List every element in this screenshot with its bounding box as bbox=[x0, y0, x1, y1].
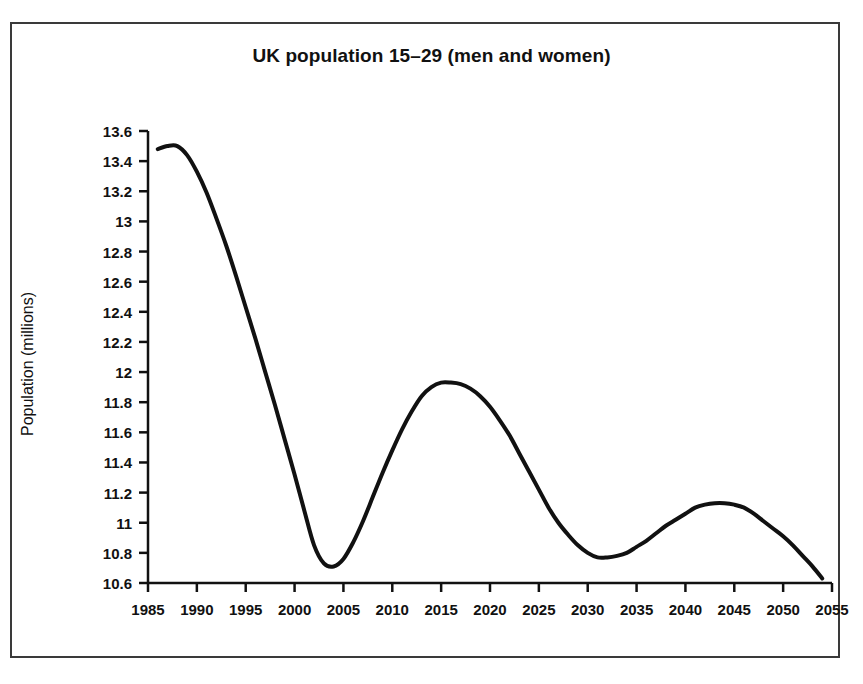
y-tick-label: 13.4 bbox=[40, 153, 132, 170]
x-tick-label: 1990 bbox=[180, 601, 213, 618]
data-series-line bbox=[158, 145, 822, 578]
y-tick-label: 11.2 bbox=[40, 484, 132, 501]
y-tick-label: 12.8 bbox=[40, 243, 132, 260]
x-tick-label: 2020 bbox=[473, 601, 506, 618]
y-tick-label: 13 bbox=[40, 213, 132, 230]
figure-container: UK population 15–29 (men and women) Popu… bbox=[0, 0, 863, 684]
y-tick-label: 12 bbox=[40, 364, 132, 381]
y-tick-label: 10.6 bbox=[40, 575, 132, 592]
y-tick-label: 13.6 bbox=[40, 123, 132, 140]
y-tick-label: 12.6 bbox=[40, 273, 132, 290]
y-tick-label: 13.2 bbox=[40, 183, 132, 200]
x-tick-label: 2040 bbox=[669, 601, 702, 618]
x-tick-label: 1995 bbox=[229, 601, 262, 618]
y-axis-ticks bbox=[139, 131, 148, 583]
x-tick-label: 2050 bbox=[766, 601, 799, 618]
y-tick-label: 11.4 bbox=[40, 454, 132, 471]
x-tick-label: 1985 bbox=[131, 601, 164, 618]
x-tick-label: 2005 bbox=[327, 601, 360, 618]
x-tick-label: 2010 bbox=[376, 601, 409, 618]
x-tick-label: 2015 bbox=[424, 601, 457, 618]
x-tick-label: 2045 bbox=[718, 601, 751, 618]
x-tick-label: 2000 bbox=[278, 601, 311, 618]
x-tick-label: 2030 bbox=[571, 601, 604, 618]
y-tick-label: 11 bbox=[40, 514, 132, 531]
x-tick-label: 2035 bbox=[620, 601, 653, 618]
y-tick-label: 10.8 bbox=[40, 544, 132, 561]
y-tick-label: 11.6 bbox=[40, 424, 132, 441]
y-tick-label: 11.8 bbox=[40, 394, 132, 411]
y-tick-label: 12.2 bbox=[40, 333, 132, 350]
x-tick-label: 2055 bbox=[815, 601, 848, 618]
y-tick-label: 12.4 bbox=[40, 303, 132, 320]
x-tick-label: 2025 bbox=[522, 601, 555, 618]
x-axis-ticks bbox=[148, 583, 832, 592]
